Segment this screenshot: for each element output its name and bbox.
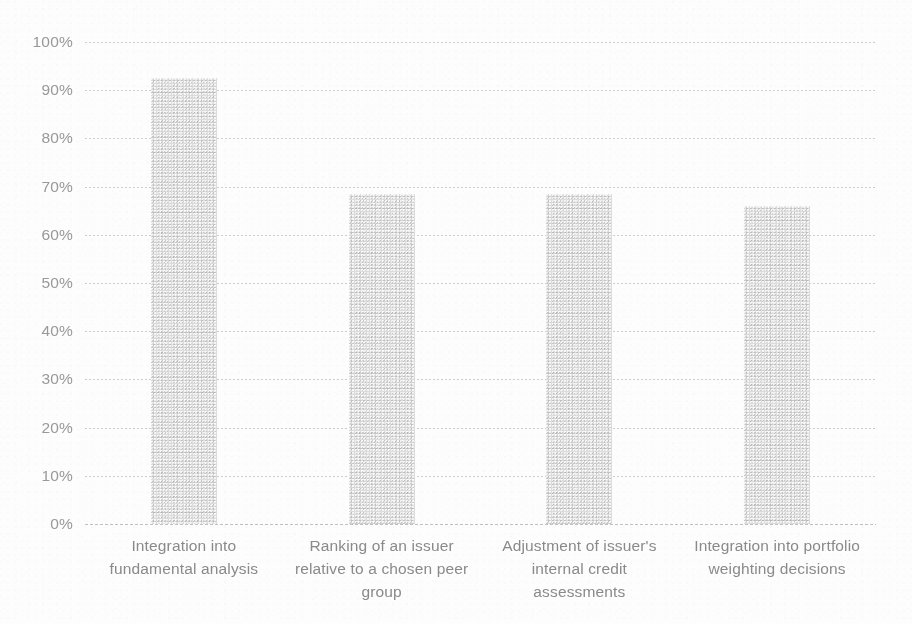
y-axis-tick-label: 60% [41,226,73,244]
y-axis-tick-label: 30% [41,370,73,388]
bar[interactable] [546,194,612,524]
y-axis-tick-label: 100% [33,33,73,51]
category-label-line: relative to a chosen peer [283,557,481,580]
category-label-line: assessments [481,580,679,603]
category-label-line: Ranking of an issuer [283,534,481,557]
y-axis-tick-label: 90% [41,81,73,99]
x-axis-category-label: Integration into portfolioweighting deci… [678,534,876,580]
y-axis-tick-label: 40% [41,322,73,340]
category-label-line: fundamental analysis [85,557,283,580]
category-label-group: Integration intofundamental analysisRank… [85,534,876,620]
x-axis-category-label: Integration intofundamental analysis [85,534,283,580]
plot-area: 100%90%80%70%60%50%40%30%20%10%0% [85,42,876,524]
y-axis-tick-label: 0% [50,515,73,533]
bar-group [85,42,876,524]
y-axis-tick-label: 80% [41,129,73,147]
gridline-0: 0% [85,524,876,525]
bar[interactable] [151,78,217,524]
bar-slot [283,42,481,524]
y-axis-tick-label: 70% [41,178,73,196]
category-label-line: Integration into [85,534,283,557]
bar-slot [678,42,876,524]
category-label-line: weighting decisions [678,557,876,580]
y-axis-tick-label: 20% [41,419,73,437]
x-axis-category-label: Ranking of an issuerrelative to a chosen… [283,534,481,603]
category-label-line: group [283,580,481,603]
bar-chart: 100%90%80%70%60%50%40%30%20%10%0% Integr… [0,0,912,624]
y-axis-tick-label: 50% [41,274,73,292]
bar-slot [481,42,679,524]
category-label-line: internal credit [481,557,679,580]
x-axis-category-label: Adjustment of issuer'sinternal creditass… [481,534,679,603]
y-axis-tick-label: 10% [41,467,73,485]
bar-slot [85,42,283,524]
category-label-line: Integration into portfolio [678,534,876,557]
category-label-line: Adjustment of issuer's [481,534,679,557]
bar[interactable] [349,194,415,524]
bar[interactable] [744,206,810,524]
